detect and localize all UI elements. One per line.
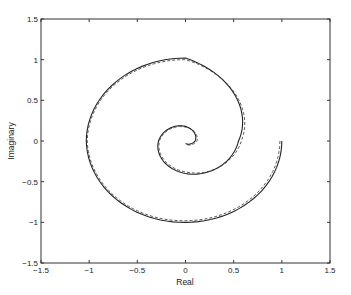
x-axis-ticks: −1.5−1−0.500.511.5 (33, 19, 336, 275)
y-tick-label: −0.5 (22, 178, 38, 187)
x-tick-label: −1 (85, 266, 95, 275)
x-axis-label: Real (176, 277, 194, 287)
y-tick-label: −1.5 (22, 259, 38, 268)
x-tick-label: −0.5 (129, 266, 145, 275)
y-tick-label: 1 (34, 56, 39, 65)
dashed-spiral-line (87, 60, 280, 221)
y-tick-label: −1 (29, 218, 39, 227)
y-axis-label: Imaginary (6, 122, 16, 160)
y-tick-label: 0 (34, 137, 39, 146)
x-tick-label: 0 (183, 266, 188, 275)
x-tick-label: 1 (280, 266, 285, 275)
spiral-plot: −1.5−1−0.500.511.5 −1.5−1−0.500.511.5 Re… (0, 0, 351, 295)
y-axis-ticks: −1.5−1−0.500.511.5 (22, 15, 330, 268)
x-tick-label: 1.5 (324, 266, 336, 275)
x-tick-label: 0.5 (228, 266, 240, 275)
plot-frame (41, 19, 330, 263)
y-tick-label: 0.5 (27, 96, 39, 105)
solid-spiral-line (86, 58, 282, 222)
y-tick-label: 1.5 (27, 15, 39, 24)
